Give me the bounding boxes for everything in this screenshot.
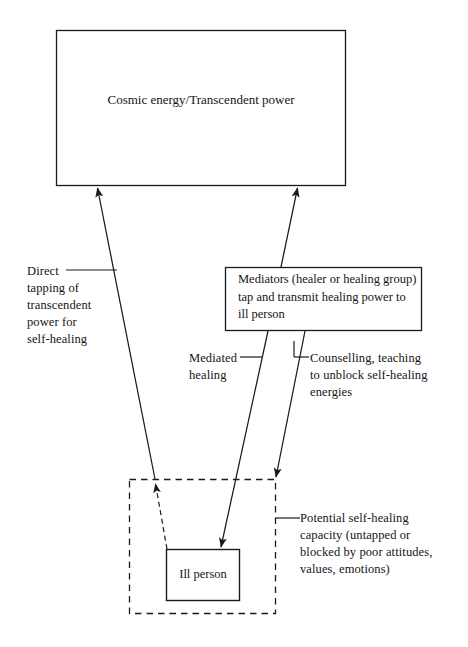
counselling-teaching-annotation: Counselling, teaching to unblock self-he…	[310, 350, 445, 401]
ill-person-box-label: Ill person	[166, 566, 240, 583]
direct-tapping-annotation: Direct tapping of transcendent power for…	[27, 263, 127, 348]
potential-self-healing-capacity-annotation: Potential self-healing capacity (untappe…	[300, 510, 460, 578]
mediators-to-cosmic-arrow	[281, 188, 298, 267]
cosmic-energy-box	[57, 31, 346, 186]
diagram-canvas: Cosmic energy/Transcendent power Mediato…	[0, 0, 468, 647]
cosmic-energy-box-label: Cosmic energy/Transcendent power	[56, 91, 346, 108]
ill-person-to-capacity-arrow	[156, 484, 168, 549]
mediators-box-label: Mediators (healer or healing group) tap …	[238, 271, 418, 324]
counselling-arrow	[276, 331, 305, 477]
potential-self-healing-capacity-box	[130, 480, 276, 614]
mediated-healing-annotation: Mediated healing	[189, 350, 269, 384]
